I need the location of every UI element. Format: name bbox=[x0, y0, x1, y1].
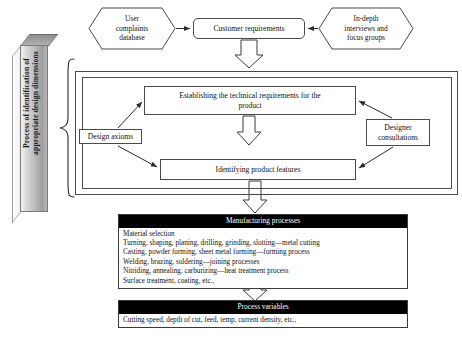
input-user-complaints-label: User complaints database bbox=[102, 14, 162, 43]
node-identifying-label: Identifying product features bbox=[213, 165, 304, 175]
process-scope-bar: Process of identification of appropriate… bbox=[12, 34, 56, 212]
input-interviews-label: In-depth interviews and focus groups bbox=[330, 14, 401, 43]
list-item: Nitriding, annealing, carburizing—heat t… bbox=[123, 267, 407, 276]
list-item: Welding, brazing, soldering—joining proc… bbox=[123, 258, 407, 267]
input-interviews-focus-groups[interactable]: In-depth interviews and focus groups bbox=[318, 7, 414, 50]
scope-brace bbox=[58, 58, 76, 198]
node-design-axioms-label: Design axioms bbox=[85, 132, 136, 142]
input-user-complaints-database[interactable]: User complaints database bbox=[88, 7, 176, 50]
panel-manufacturing-header: Manufacturing processes bbox=[119, 215, 407, 228]
process-scope-label: Process of identification of appropriate… bbox=[22, 28, 40, 178]
block-arrow-customer-to-process bbox=[235, 40, 263, 68]
diagram-canvas: Process of identification of appropriate… bbox=[0, 0, 462, 339]
node-establishing-label: Establishing the technical requirements … bbox=[176, 91, 324, 111]
node-design-axioms[interactable]: Design axioms bbox=[79, 129, 142, 144]
list-item: Material selection bbox=[123, 230, 407, 239]
node-customer-requirements[interactable]: Customer requirements bbox=[193, 18, 305, 39]
node-establishing-technical-requirements[interactable]: Establishing the technical requirements … bbox=[144, 86, 356, 115]
list-item: Cutting speed, depth of cut, feed, temp,… bbox=[123, 316, 407, 325]
panel-process-variables: Process variables Cutting speed, depth o… bbox=[118, 300, 408, 328]
node-designer-consultations[interactable]: Designer consultations bbox=[366, 119, 430, 146]
node-customer-requirements-label: Customer requirements bbox=[210, 24, 287, 34]
panel-process-variables-header: Process variables bbox=[119, 301, 407, 314]
list-item: Surface treatment, coating, etc., bbox=[123, 277, 407, 286]
panel-process-variables-body: Cutting speed, depth of cut, feed, temp,… bbox=[119, 314, 407, 327]
list-item: Casting, powder forming, sheet metal for… bbox=[123, 248, 407, 257]
panel-manufacturing-body: Material selection Turning, shaping, pla… bbox=[119, 228, 407, 288]
panel-manufacturing-processes: Manufacturing processes Material selecti… bbox=[118, 214, 408, 289]
list-item: Turning, shaping, planing, drilling, gri… bbox=[123, 239, 407, 248]
node-identifying-product-features[interactable]: Identifying product features bbox=[160, 159, 356, 180]
node-designer-consultations-label: Designer consultations bbox=[375, 123, 421, 143]
